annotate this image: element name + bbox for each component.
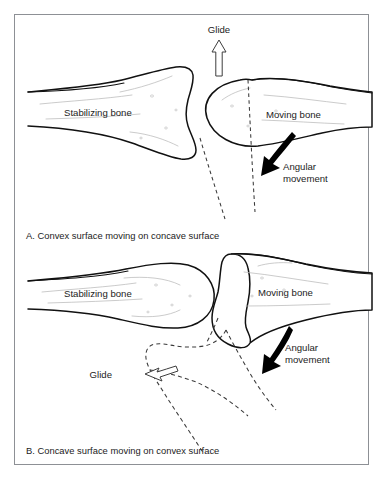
panel-a-axis-rotated <box>200 138 225 219</box>
panel-b-moving-bone <box>212 254 372 348</box>
panel-a-caption: A. Convex surface moving on concave surf… <box>26 230 219 241</box>
panel-a-angular-label-2: movement <box>283 173 328 184</box>
panel-b-glide-arrow <box>145 366 178 381</box>
panel-b: Glide Angular movement Stabilizing bone … <box>26 254 372 456</box>
figure-root: Glide Angular movement Stabilizing bone … <box>0 0 385 481</box>
panel-a-moving-label: Moving bone <box>266 109 321 120</box>
panel-b-moving-label: Moving bone <box>258 287 313 298</box>
panel-b-caption: B. Concave surface moving on convex surf… <box>26 445 219 456</box>
panel-a: Glide Angular movement Stabilizing bone … <box>26 24 372 241</box>
panel-a-glide-arrow <box>212 40 226 76</box>
panel-b-glide-label: Glide <box>90 369 112 380</box>
panel-b-angular-label-2: movement <box>285 354 330 365</box>
panel-a-angular-label-1: Angular <box>283 161 317 172</box>
panel-b-stabilizing-label: Stabilizing bone <box>64 288 132 299</box>
panel-a-glide-label: Glide <box>208 24 230 35</box>
panel-a-stabilizing-label: Stabilizing bone <box>64 107 132 118</box>
panel-b-angular-label-1: Angular <box>285 342 319 353</box>
anatomy-diagram: Glide Angular movement Stabilizing bone … <box>0 0 385 481</box>
